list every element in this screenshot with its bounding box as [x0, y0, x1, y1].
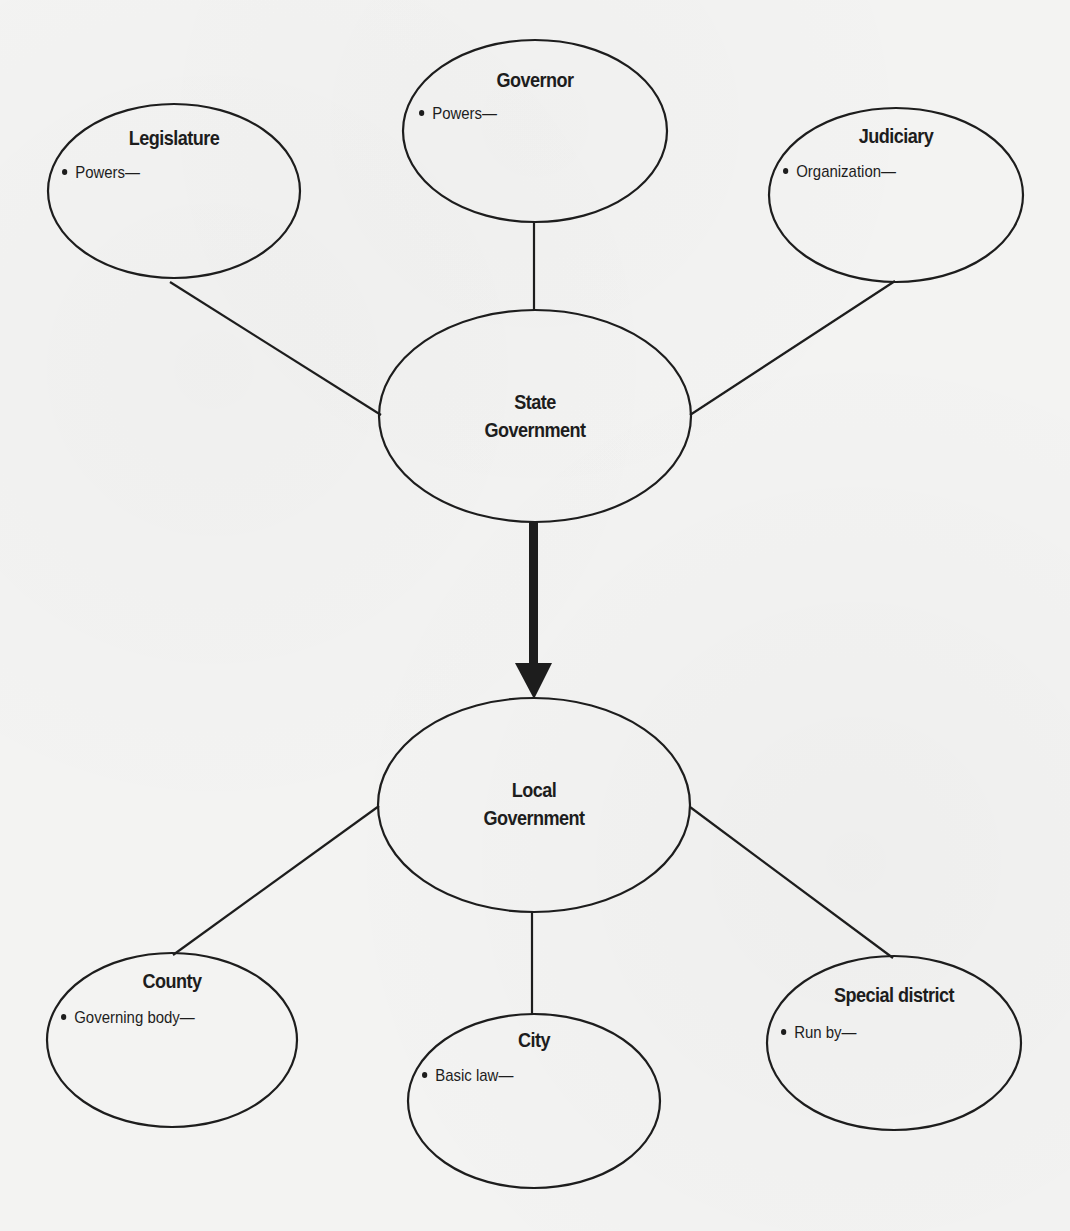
node-judiciary: Judiciary Organization—	[769, 108, 1023, 282]
city-bullet: Basic law—	[422, 1066, 513, 1086]
node-city: City Basic law—	[408, 1014, 660, 1188]
bullet-icon	[783, 168, 788, 174]
connector-local-county	[173, 806, 379, 955]
connector-local-special-district	[690, 807, 893, 958]
state-label-line1: State	[401, 388, 669, 416]
node-governor: Governor Powers—	[403, 40, 667, 222]
connector-legislature-state	[170, 282, 381, 415]
arrow-state-to-local	[515, 522, 552, 699]
bullet-icon	[422, 1072, 427, 1078]
local-label-line2: Government	[400, 804, 668, 832]
bullet-icon	[781, 1029, 786, 1035]
bullet-icon	[62, 169, 67, 175]
node-special-district: Special district Run by—	[767, 957, 1021, 1131]
state-label-line2: Government	[401, 416, 669, 444]
legislature-bullet-text: Powers—	[75, 163, 140, 182]
node-county: County Governing body—	[47, 953, 297, 1127]
special-district-bullet: Run by—	[781, 1023, 857, 1043]
governor-bullet-text: Powers—	[432, 104, 497, 123]
local-label-line1: Local	[400, 776, 668, 804]
governor-title: Governor	[421, 66, 648, 94]
state-government-label: State Government	[401, 388, 669, 444]
legislature-bullet: Powers—	[62, 163, 140, 183]
special-district-title: Special district	[785, 981, 1003, 1009]
legislature-title: Legislature	[66, 124, 283, 152]
city-title: City	[426, 1026, 643, 1054]
judiciary-bullet: Organization—	[783, 162, 896, 182]
judiciary-title: Judiciary	[787, 122, 1005, 150]
local-government-label: Local Government	[400, 776, 668, 832]
bullet-icon	[61, 1014, 66, 1020]
node-local-government: Local Government	[378, 698, 690, 912]
governor-bullet: Powers—	[419, 104, 497, 124]
connector-judiciary-state	[690, 281, 895, 415]
county-bullet-text: Governing body—	[74, 1008, 195, 1027]
county-bullet: Governing body—	[61, 1008, 195, 1028]
county-title: County	[65, 967, 280, 995]
special-district-bullet-text: Run by—	[794, 1023, 856, 1042]
node-legislature: Legislature Powers—	[48, 104, 300, 278]
city-bullet-text: Basic law—	[435, 1066, 513, 1085]
judiciary-bullet-text: Organization—	[796, 162, 896, 181]
bullet-icon	[419, 110, 424, 116]
node-state-government: State Government	[379, 310, 691, 522]
